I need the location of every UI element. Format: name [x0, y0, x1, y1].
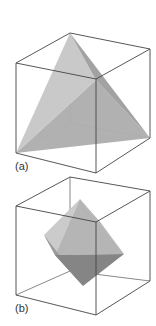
figure-a: [16, 33, 150, 173]
figure-b: [16, 177, 150, 315]
figure-a-label: (a): [15, 160, 28, 172]
octahedron-face-lower-front: [55, 254, 124, 286]
figure-b-label: (b): [15, 302, 28, 314]
